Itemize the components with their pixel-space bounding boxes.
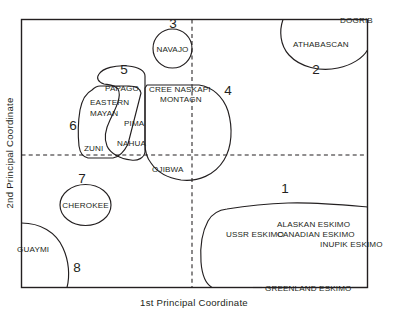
- label-cree-naskapi: CREE NASKAPI: [149, 85, 211, 94]
- figure-canvas: DOGRIB ATHABASCAN NAVAJO PAPAGO CREE NAS…: [0, 0, 395, 316]
- label-navajo: NAVAJO: [156, 45, 188, 54]
- label-athabascan: ATHABASCAN: [293, 40, 349, 49]
- label-inupik-eskimo: INUPIK ESKIMO: [320, 240, 383, 249]
- label-canadian-eskimo: CANADIAN ESKIMO: [277, 230, 355, 239]
- label-mayan: MAYAN: [90, 109, 118, 118]
- label-guaymi: GUAYMI: [17, 245, 49, 254]
- label-alaskan-eskimo: ALASKAN ESKIMO: [277, 220, 350, 229]
- cluster-number-5: 5: [120, 62, 128, 77]
- label-montagn: MONTAGN: [160, 95, 202, 104]
- principal-coordinate-plot: DOGRIB ATHABASCAN NAVAJO PAPAGO CREE NAS…: [0, 0, 395, 316]
- label-ojibwa: OJIBWA: [152, 165, 184, 174]
- label-ussr-eskimo: USSR ESKIMO: [226, 230, 284, 239]
- cluster-number-8: 8: [73, 260, 81, 275]
- label-papago: PAPAGO: [105, 84, 139, 93]
- cluster-number-4: 4: [224, 83, 232, 98]
- cluster-8-outline: [22, 223, 69, 288]
- cluster-number-7: 7: [78, 171, 86, 186]
- y-axis-title: 2nd Principal Coordinate: [4, 97, 15, 208]
- label-pima: PIMA: [124, 119, 145, 128]
- label-eastern: EASTERN: [90, 98, 129, 107]
- x-axis-title: 1st Principal Coordinate: [140, 297, 248, 308]
- cluster-number-2: 2: [312, 62, 320, 77]
- cluster-number-1: 1: [281, 181, 289, 196]
- cluster-number-6: 6: [69, 118, 77, 133]
- cluster-number-3: 3: [169, 16, 177, 31]
- label-nahua: NAHUA: [117, 139, 147, 148]
- plot-frame: [22, 20, 368, 288]
- label-greenland-eskimo: GREENLAND ESKIMO: [265, 284, 352, 293]
- label-cherokee: CHEROKEE: [62, 201, 109, 210]
- label-dogrib: DOGRIB: [340, 16, 373, 25]
- label-zuni: ZUNI: [84, 144, 103, 153]
